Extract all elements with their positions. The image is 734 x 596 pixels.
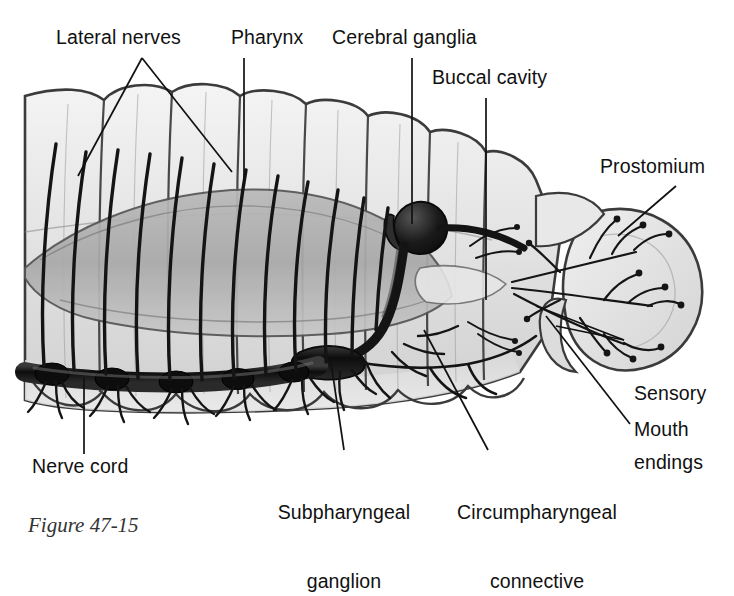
label-lateral-nerves: Lateral nerves: [56, 26, 181, 49]
label-circumpharyngeal-connective-line1: Circumpharyngeal: [444, 501, 630, 524]
label-subpharyngeal-ganglion: Subpharyngeal ganglion: [262, 455, 426, 596]
figure-caption: Figure 47-15: [28, 513, 139, 538]
label-sensory-endings-line1: Sensory: [634, 382, 706, 405]
label-subpharyngeal-ganglion-line1: Subpharyngeal: [262, 501, 426, 524]
label-nerve-cord: Nerve cord: [32, 455, 128, 478]
label-sensory-endings-line2: endings: [634, 451, 706, 474]
label-mouth: Mouth: [634, 418, 689, 441]
label-cerebral-ganglia: Cerebral ganglia: [332, 26, 477, 49]
label-circumpharyngeal-connective: Circumpharyngeal connective: [444, 455, 630, 596]
label-circumpharyngeal-connective-line2: connective: [444, 570, 630, 593]
label-prostomium: Prostomium: [600, 155, 705, 178]
label-pharynx: Pharynx: [231, 26, 303, 49]
label-subpharyngeal-ganglion-line2: ganglion: [262, 570, 426, 593]
label-buccal-cavity: Buccal cavity: [432, 66, 547, 89]
